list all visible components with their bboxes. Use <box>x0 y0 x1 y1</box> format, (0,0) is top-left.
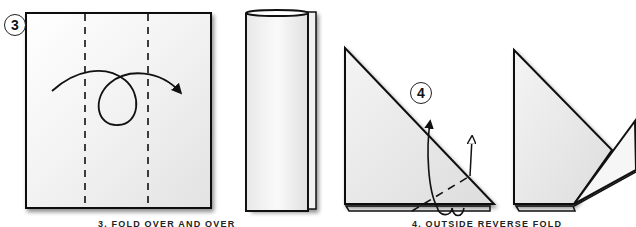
step3-rolled-tube <box>246 10 316 211</box>
diagram-canvas <box>0 0 636 227</box>
step3-caption: 3. FOLD OVER AND OVER <box>98 219 235 227</box>
step-number-badge-3: 3 <box>4 14 26 36</box>
step3-square-paper <box>26 13 211 208</box>
step-number-badge-4: 4 <box>410 82 432 104</box>
step4-result-triangle <box>514 50 636 211</box>
step4-caption: 4. OUTSIDE REVERSE FOLD <box>412 219 562 227</box>
reverse-fold-arrow-open-icon <box>470 138 472 176</box>
step4-triangle <box>345 48 494 216</box>
